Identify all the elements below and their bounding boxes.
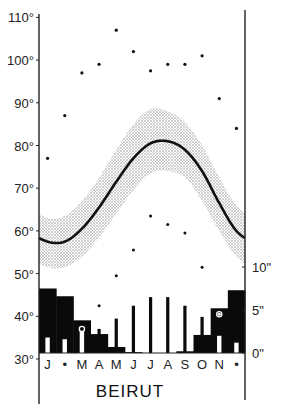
month-label: J <box>130 357 137 372</box>
temperature-range-band <box>39 108 245 268</box>
min-temp-dot <box>132 249 135 252</box>
max-temp-dot <box>166 63 169 66</box>
month-label: O <box>197 357 207 372</box>
min-temp-dot <box>218 313 221 316</box>
max-temp-dot <box>115 29 118 32</box>
precip-min-bar <box>217 336 221 353</box>
temp-tick-label: 80° <box>14 139 34 154</box>
precip-spike-bar <box>97 329 100 353</box>
max-temp-dot <box>200 54 203 57</box>
precipitation-bars <box>39 289 246 354</box>
precip-spike-bar <box>183 306 186 353</box>
month-label: J <box>44 357 51 372</box>
month-label: M <box>111 357 122 372</box>
precip-tick-label: 0" <box>252 346 264 361</box>
precip-spike-bar <box>200 317 203 353</box>
climate-chart: 30°40°50°60°70°80°90°100°110°0"5"10"J•MA… <box>0 0 281 412</box>
month-label: • <box>62 357 67 372</box>
precip-tick-label: 5" <box>252 303 264 318</box>
month-label: A <box>163 357 172 372</box>
precip-spike-bar <box>115 319 118 353</box>
temperature-band <box>39 108 245 268</box>
min-temp-dot <box>98 304 101 307</box>
precip-tick-label: 10" <box>252 260 271 275</box>
temp-tick-label: 40° <box>14 309 34 324</box>
min-temp-dot <box>201 266 204 269</box>
max-temp-dot <box>149 69 152 72</box>
min-temp-dot <box>115 274 118 277</box>
month-label: • <box>234 357 239 372</box>
max-temp-dot <box>63 114 66 117</box>
min-temp-dot <box>166 223 169 226</box>
temp-tick-label: 110° <box>8 10 34 25</box>
max-temp-dot <box>97 63 100 66</box>
precip-spike-bar <box>132 306 135 353</box>
precip-min-bar <box>45 338 49 353</box>
min-temp-dot <box>183 232 186 235</box>
temp-tick-label: 90° <box>14 96 34 111</box>
precip-spike-bar <box>166 297 169 353</box>
max-temp-dot <box>80 71 83 74</box>
temp-tick-label: 30° <box>14 352 34 367</box>
temp-tick-label: 50° <box>14 267 34 282</box>
month-label: A <box>95 357 104 372</box>
precip-spike-bar <box>149 297 152 353</box>
max-temp-dot <box>235 127 238 130</box>
precip-min-bar <box>80 331 84 353</box>
max-temp-dot <box>183 63 186 66</box>
min-temp-dot <box>80 334 83 337</box>
temp-tick-label: 60° <box>14 224 34 239</box>
precip-min-bar <box>63 339 67 353</box>
month-label: S <box>181 357 190 372</box>
min-temp-dot <box>149 214 152 217</box>
temp-tick-label: 100° <box>7 53 34 68</box>
chart-title: BEIRUT <box>96 382 164 401</box>
temp-tick-label: 70° <box>14 181 34 196</box>
month-label: J <box>147 357 154 372</box>
max-temp-dot <box>132 50 135 53</box>
max-temp-dot <box>218 97 221 100</box>
precip-min-bar <box>234 343 238 353</box>
max-temp-dot <box>46 157 49 160</box>
month-label: N <box>215 357 224 372</box>
month-label: M <box>76 357 87 372</box>
circle-marker <box>79 326 84 331</box>
